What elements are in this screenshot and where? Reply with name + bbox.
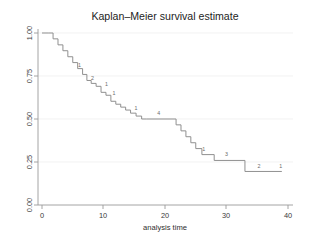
censor-count-label: 2 <box>91 75 94 81</box>
censor-count-label: 1 <box>78 62 81 68</box>
x-tick-label-0: 0 <box>40 211 44 220</box>
y-tick-label-1-00: 1.00 <box>25 26 34 40</box>
y-tick-label-0-00: 0.00 <box>25 198 34 212</box>
x-axis-title: analysis time <box>143 223 187 232</box>
chart-background <box>0 0 314 246</box>
kaplan-meier-chart: 1.00 0.75 0.50 0.25 0.00 0 10 20 30 40 a… <box>0 0 314 246</box>
y-tick-label-0-50: 0.50 <box>25 112 34 126</box>
y-tick-label-0-75: 0.75 <box>25 69 34 83</box>
censor-count-label: 4 <box>157 110 160 116</box>
chart-page: 1.00 0.75 0.50 0.25 0.00 0 10 20 30 40 a… <box>0 0 314 246</box>
censor-count-label: 2 <box>258 163 261 169</box>
chart-title: Kaplan–Meier survival estimate <box>91 10 238 22</box>
censor-count-label: 1 <box>105 81 108 87</box>
y-tick-label-0-25: 0.25 <box>25 155 34 169</box>
censor-count-label: 1 <box>279 163 282 169</box>
x-tick-label-10: 10 <box>99 211 107 220</box>
x-tick-label-30: 30 <box>222 211 230 220</box>
censor-count-label: 1 <box>202 146 205 152</box>
censor-count-label: 3 <box>225 151 228 157</box>
x-tick-label-20: 20 <box>161 211 169 220</box>
x-tick-label-40: 40 <box>284 211 292 220</box>
censor-count-label: 1 <box>135 105 138 111</box>
censor-count-label: 1 <box>112 90 115 96</box>
